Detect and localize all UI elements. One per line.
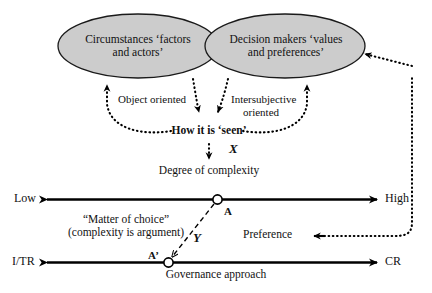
marker-point-a-prime: [164, 258, 173, 267]
label-governance-approach: Governance approach: [166, 268, 267, 281]
axis-governance-left-label: I/TR: [12, 255, 35, 268]
axis-complexity-right-label: High: [385, 192, 409, 205]
label-variable-y: Y: [193, 231, 201, 246]
label-object-oriented: Object oriented: [118, 93, 186, 105]
marker-point-a: [213, 195, 222, 204]
label-point-a-prime: A’: [148, 249, 159, 261]
label-intersubjective-line2: oriented: [243, 106, 279, 118]
diagram-canvas: [0, 0, 432, 293]
label-variable-x: X: [229, 142, 238, 157]
ellipse-circumstances-line2: and actors’: [113, 46, 164, 58]
arrow-preference-feedback-head-top: [365, 54, 412, 66]
label-matter-of-choice-line2: (complexity is argument): [68, 226, 184, 239]
label-degree-of-complexity: Degree of complexity: [159, 164, 259, 177]
arrow-circumstances-down: [193, 79, 199, 112]
label-preference: Preference: [243, 228, 292, 241]
axis-complexity-left-label: Low: [14, 192, 36, 205]
ellipse-decision-makers-line2: and preferences’: [248, 46, 324, 58]
arrow-preference-feedback: [316, 76, 412, 236]
label-point-a: A: [224, 205, 232, 217]
ellipse-decision-makers-label: Decision makers ‘values and preferences’: [229, 33, 342, 59]
axis-governance-right-label: CR: [385, 255, 401, 268]
label-matter-of-choice-line1: “Matter of choice”: [83, 213, 169, 226]
ellipse-decision-makers-line1: Decision makers ‘values: [229, 33, 342, 45]
ellipse-circumstances-line1: Circumstances ‘factors: [85, 33, 191, 45]
arrow-decision-makers-down: [218, 79, 228, 112]
label-how-it-is-seen: How it is ‘seen’: [171, 124, 246, 137]
ellipse-circumstances-label: Circumstances ‘factors and actors’: [85, 33, 191, 59]
label-intersubjective-line1: Intersubjective: [231, 93, 296, 105]
